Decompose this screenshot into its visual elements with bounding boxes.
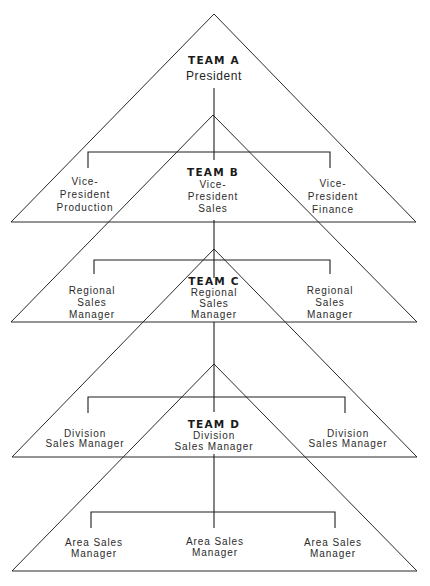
label-line: Sales Manager — [46, 438, 125, 449]
label-line: Manager — [310, 548, 356, 559]
team-c-title: TEAM C — [188, 275, 239, 287]
division-manager-right-label: Division Sales Manager — [309, 428, 388, 449]
label-line: Area Sales — [186, 536, 244, 547]
team-b-title: TEAM B — [187, 166, 239, 178]
connector-team-d — [91, 454, 335, 528]
vp-sales-label: Vice- President Sales — [188, 179, 238, 214]
label-line: Finance — [312, 204, 354, 215]
label-line: Manager — [71, 548, 117, 559]
label-line: Manager — [192, 547, 238, 558]
vp-production-label: Vice- President Production — [57, 176, 114, 213]
label-line: Sales Manager — [309, 438, 388, 449]
label-line: Sales — [315, 297, 345, 308]
label-line: Area Sales — [304, 537, 362, 548]
label-line: Sales — [199, 298, 229, 309]
label-line: Vice- — [71, 176, 98, 187]
connector-team-c — [88, 322, 345, 413]
label-line: President — [60, 189, 110, 200]
team-d-title: TEAM D — [188, 418, 240, 430]
division-manager-left-label: Division Sales Manager — [46, 428, 125, 449]
label-line: Sales Manager — [175, 441, 254, 452]
division-manager-center-label: Division Sales Manager — [175, 430, 254, 452]
connector-team-b — [94, 220, 330, 278]
regional-manager-right-label: Regional Sales Manager — [307, 285, 354, 320]
label-line: Regional — [191, 287, 238, 298]
label-line: Manager — [191, 309, 237, 320]
label-line: Production — [57, 202, 114, 213]
area-manager-center-label: Area Sales Manager — [186, 536, 244, 558]
label-line: President — [308, 191, 358, 202]
president-label: President — [186, 69, 242, 83]
label-line: Area Sales — [65, 537, 123, 548]
label-line: Vice- — [199, 179, 226, 190]
area-manager-right-label: Area Sales Manager — [304, 537, 362, 559]
label-line: Vice- — [319, 178, 346, 189]
linking-pin-org-diagram: TEAM A President Vice- President Product… — [0, 0, 430, 586]
label-line: Sales — [198, 203, 228, 214]
regional-manager-center-label: Regional Sales Manager — [191, 287, 238, 320]
label-line: Manager — [69, 309, 115, 320]
label-line: Division — [193, 430, 235, 441]
area-manager-left-label: Area Sales Manager — [65, 537, 123, 559]
label-line: Sales — [77, 297, 107, 308]
label-line: Manager — [307, 309, 353, 320]
label-line: President — [188, 191, 238, 202]
team-a-title: TEAM A — [188, 54, 240, 66]
regional-manager-left-label: Regional Sales Manager — [69, 285, 116, 320]
label-line: Regional — [69, 285, 116, 296]
vp-finance-label: Vice- President Finance — [308, 178, 358, 215]
connector-team-a — [88, 88, 330, 168]
label-line: Regional — [307, 285, 354, 296]
